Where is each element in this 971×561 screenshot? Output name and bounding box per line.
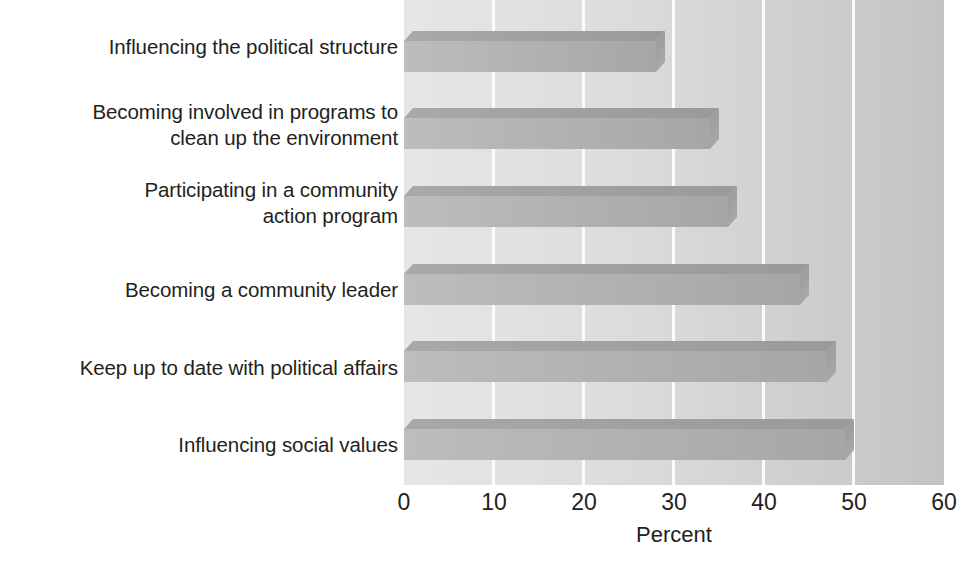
plot-area	[404, 0, 944, 485]
category-label-4: Keep up to date with political affairs	[2, 355, 398, 381]
x-axis-title: Percent	[404, 521, 944, 549]
x-tick-20: 20	[571, 487, 597, 517]
x-axis-tick-labels: 0 10 20 30 40 50 60	[0, 487, 971, 521]
bar-2-top-face	[404, 186, 737, 196]
bar-1-top-face	[404, 108, 719, 118]
category-axis-labels: Influencing the political structure Beco…	[0, 0, 398, 485]
category-label-3: Becoming a community leader	[2, 277, 398, 303]
bar-4-top-face	[404, 341, 836, 351]
category-label-0: Influencing the political structure	[2, 34, 398, 60]
x-tick-60: 60	[931, 487, 957, 517]
gridline-20	[582, 0, 585, 485]
x-tick-40: 40	[751, 487, 777, 517]
bar-4-front-face	[404, 351, 827, 382]
gridline-50	[852, 0, 855, 485]
bar-5-top-face	[404, 419, 854, 429]
bar-5-front-face	[404, 429, 845, 460]
bar-1-front-face	[404, 118, 710, 149]
bar-0-top-face	[404, 31, 665, 41]
category-label-2: Participating in a community action prog…	[2, 177, 398, 229]
x-tick-10: 10	[481, 487, 507, 517]
bar-0-front-face	[404, 41, 656, 72]
category-label-5: Influencing social values	[2, 432, 398, 458]
gridline-30	[672, 0, 675, 485]
x-tick-30: 30	[661, 487, 687, 517]
bar-3-top-face	[404, 264, 809, 274]
bar-chart: Influencing the political structure Beco…	[0, 0, 971, 561]
bar-2-front-face	[404, 196, 728, 227]
x-tick-50: 50	[841, 487, 867, 517]
gridline-10	[492, 0, 495, 485]
gridline-40	[762, 0, 765, 485]
x-tick-0: 0	[398, 487, 411, 517]
category-label-1: Becoming involved in programs to clean u…	[2, 99, 398, 151]
bar-3-front-face	[404, 274, 800, 305]
